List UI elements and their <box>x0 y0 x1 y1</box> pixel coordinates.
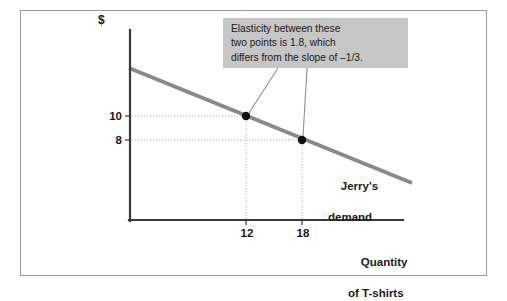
x-tick-label-12: 12 <box>238 226 256 241</box>
demand-curve-label: Jerry's demand <box>328 164 378 255</box>
y-tick-label-10: 10 <box>106 109 122 124</box>
y-axis-label: $ <box>98 13 105 29</box>
leader-line-point-b <box>303 68 307 137</box>
data-point-a <box>242 112 250 120</box>
annotation-text: Elasticity between these two points is 1… <box>231 22 363 65</box>
annotation-line-1: Elasticity between these <box>231 22 363 36</box>
leader-line-point-a <box>249 68 278 113</box>
annotation-line-2: two points is 1.8, which <box>231 36 363 50</box>
annotation-line-3: differs from the slope of –1/3. <box>231 51 363 65</box>
x-axis-title-line2: of T-shirts <box>348 286 407 301</box>
data-point-b <box>298 136 306 144</box>
demand-curve-label-line1: Jerry's <box>341 180 378 192</box>
demand-curve-label-line2: demand <box>328 210 378 225</box>
x-axis-title-line1: Quantity <box>361 256 408 268</box>
y-tick-label-8: 8 <box>106 133 122 148</box>
x-tick-label-18: 18 <box>294 226 312 241</box>
